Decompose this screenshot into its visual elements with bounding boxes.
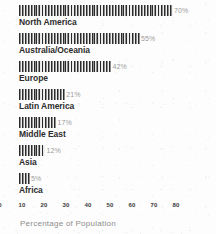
bar-row: 12% [19,144,209,157]
category-label-north-america: North America [19,17,77,27]
bar-group-asia: 12% Asia [19,144,209,172]
bar-group-latin-america: 21% Latin America [19,88,209,116]
category-label-australia-oceania: Australia/Oceania [19,45,90,55]
bar-australia-oceania [19,33,140,44]
bar-north-america [19,5,173,16]
bar-europe [19,61,111,72]
x-tick-30: 30 [62,202,69,208]
bar-row: 21% [19,88,209,101]
bar-row: 70% [19,4,209,17]
bar-row: 42% [19,60,209,73]
plot-area: 70% North America 55% Australia/Oceania … [19,4,209,200]
x-axis-caption: Percentage of Population [20,219,116,228]
bar-latin-america [19,89,65,100]
bar-row: 55% [19,32,209,45]
x-tick-60: 60 [128,202,135,208]
bar-middle-east [19,117,56,128]
x-tick-70: 70 [150,202,157,208]
category-label-asia: Asia [19,157,37,167]
percentage-of-population-bar-chart: 70% North America 55% Australia/Oceania … [0,0,216,234]
category-label-latin-america: Latin America [19,101,74,111]
x-tick-40: 40 [84,202,91,208]
bar-group-middle-east: 17% Middle East [19,116,209,144]
bar-value-europe: 42% [112,61,126,72]
bar-africa [19,173,30,184]
x-tick-0: 0 [0,202,2,208]
x-tick-50: 50 [106,202,113,208]
bar-asia [19,145,45,156]
x-tick-20: 20 [40,202,47,208]
bar-value-australia-oceania: 55% [141,33,155,44]
x-tick-80: 80 [172,202,179,208]
bar-group-africa: 5% Africa [19,172,209,200]
x-axis: 01020304050607080 [0,202,190,212]
bar-group-north-america: 70% North America [19,4,209,32]
bar-value-middle-east: 17% [57,117,71,128]
bar-value-asia: 12% [46,145,60,156]
bar-group-australia-oceania: 55% Australia/Oceania [19,32,209,60]
bar-value-north-america: 70% [174,5,188,16]
bar-row: 5% [19,172,209,185]
bar-row: 17% [19,116,209,129]
bar-group-europe: 42% Europe [19,60,209,88]
category-label-middle-east: Middle East [19,129,66,139]
x-tick-10: 10 [18,202,25,208]
bar-value-latin-america: 21% [66,89,80,100]
bar-value-africa: 5% [31,173,41,184]
category-label-africa: Africa [19,185,43,195]
category-label-europe: Europe [19,73,48,83]
